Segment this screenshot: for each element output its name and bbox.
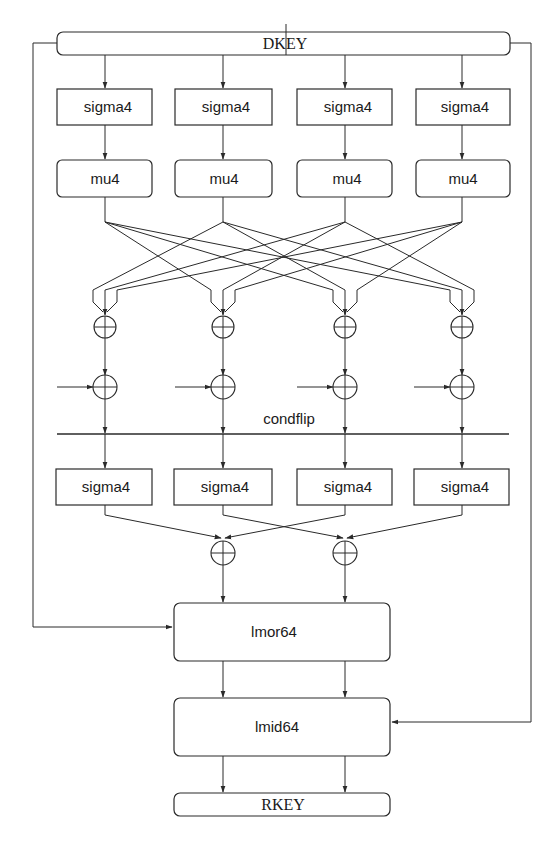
sigma4-label: sigma4 (82, 478, 130, 495)
xor-icon (333, 541, 357, 565)
lmor64-box: lmor64 (174, 603, 390, 661)
sigma4-box-6: sigma4 (174, 469, 272, 505)
xor-row-3 (211, 541, 357, 565)
lmor64-label: lmor64 (251, 623, 297, 640)
sigma4-label: sigma4 (202, 98, 250, 115)
xor-icon (94, 316, 116, 338)
sigma4-box-4: sigma4 (416, 89, 510, 125)
dkey-box: DKEY (57, 24, 510, 55)
fanout-network (93, 197, 474, 315)
sigma4-box-2: sigma4 (175, 89, 272, 125)
condflip-label: condflip (263, 410, 315, 427)
lmor-to-lmid-arrows (223, 661, 345, 697)
mu4-box-1: mu4 (57, 160, 152, 197)
xor-icon (93, 375, 117, 399)
condflip-stage: condflip (57, 410, 509, 434)
xor1-to-xor2-arrows (105, 338, 462, 375)
rkey-box: RKEY (174, 793, 390, 816)
xor-icon (211, 375, 235, 399)
dkey-to-sigma-arrows (105, 55, 462, 88)
sigma4-box-8: sigma4 (414, 469, 509, 505)
sigma4-label: sigma4 (324, 478, 372, 495)
xor-icon (212, 316, 234, 338)
sigma4-label: sigma4 (441, 478, 489, 495)
lmid64-label: lmid64 (255, 718, 299, 735)
rkey-label: RKEY (261, 796, 305, 813)
xor-icon (211, 541, 235, 565)
xor-icon (450, 375, 474, 399)
mu4-label: mu4 (209, 170, 238, 187)
mu4-label: mu4 (90, 170, 119, 187)
sigma4-box-3: sigma4 (297, 89, 392, 125)
xor-row-1 (94, 316, 473, 338)
combine-network (105, 505, 462, 538)
dkey-label: DKEY (263, 35, 308, 52)
xor-icon (451, 316, 473, 338)
diagram-svg: DKEY sigma4 sigma4 sigma4 sigma4 (0, 0, 560, 848)
sigma4-box-1: sigma4 (57, 89, 152, 125)
xor-icon (334, 316, 356, 338)
sigma4-label: sigma4 (441, 98, 489, 115)
sigma4-box-7: sigma4 (297, 469, 392, 505)
xor3-to-lmor-arrows (223, 565, 345, 602)
key-schedule-diagram: DKEY sigma4 sigma4 sigma4 sigma4 (0, 0, 560, 848)
mu4-row: mu4 mu4 mu4 mu4 (57, 160, 510, 197)
sigma4-label: sigma4 (84, 98, 132, 115)
mu4-box-3: mu4 (297, 160, 392, 197)
xor-icon (333, 375, 357, 399)
sigma4-row-1: sigma4 sigma4 sigma4 sigma4 (57, 89, 510, 125)
mu4-box-4: mu4 (416, 160, 510, 197)
sigma4-label: sigma4 (201, 478, 249, 495)
sigma4-row-2: sigma4 sigma4 sigma4 sigma4 (56, 469, 509, 505)
mu4-box-2: mu4 (175, 160, 272, 197)
sigma4-box-5: sigma4 (56, 469, 152, 505)
mu4-label: mu4 (332, 170, 361, 187)
sigma-to-mu-arrows (105, 125, 462, 159)
lmid-to-rkey-arrows (223, 756, 345, 792)
mu4-label: mu4 (448, 170, 477, 187)
lmid64-box: lmid64 (174, 698, 390, 756)
sigma4-label: sigma4 (324, 98, 372, 115)
